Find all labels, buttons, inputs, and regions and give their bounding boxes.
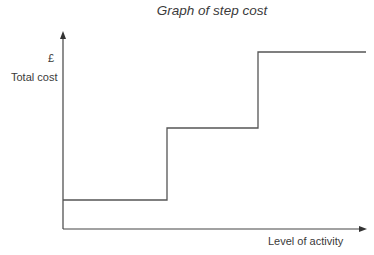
x-axis-arrow-icon: [359, 226, 367, 232]
y-axis-arrow-icon: [60, 31, 66, 39]
chart-plot-area: [0, 0, 374, 255]
step-cost-line: [63, 52, 366, 200]
